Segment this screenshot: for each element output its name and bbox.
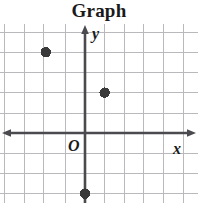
data-point	[99, 87, 109, 97]
data-point	[80, 188, 90, 198]
y-axis-label: y	[92, 25, 99, 43]
data-point	[41, 47, 51, 57]
graph-figure: Graph y x O	[0, 0, 198, 203]
figure-title: Graph	[0, 0, 198, 23]
grid-lines-horizontal	[0, 32, 198, 193]
coordinate-plane-svg	[0, 24, 198, 203]
coordinate-plane: y x O	[0, 24, 198, 203]
origin-label: O	[68, 137, 80, 155]
x-axis	[2, 129, 196, 137]
data-points	[41, 47, 110, 199]
x-axis-label: x	[173, 140, 181, 158]
